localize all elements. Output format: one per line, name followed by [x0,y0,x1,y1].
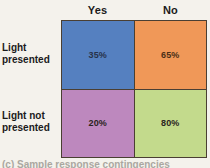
row-header-light-not-presented-line2: presented [2,122,59,134]
matrix-cell-light-presented-yes: 35% [62,21,134,89]
column-header-yes: Yes [61,3,134,17]
contingency-matrix-figure: Yes No Light presented Light not present… [0,0,210,168]
row-header-light-presented-line2: presented [2,54,59,66]
row-header-light-presented-line1: Light [2,42,59,54]
matrix-cell-value: 80% [161,118,180,128]
matrix-grid: 35% 65% 20% 80% [61,20,207,158]
matrix-cell-light-presented-no: 65% [135,21,207,89]
matrix-cell-value: 65% [161,50,180,60]
row-header-light-not-presented-line1: Light not [2,110,59,122]
matrix-cell-light-not-presented-no: 80% [135,90,207,158]
column-header-no: No [134,3,207,17]
row-header-light-not-presented: Light not presented [2,110,59,133]
figure-caption: (c) Sample response contingencies [2,159,208,168]
matrix-cell-value: 20% [88,118,107,128]
matrix-cell-light-not-presented-yes: 20% [62,90,134,158]
matrix-cell-value: 35% [88,50,107,60]
row-header-light-presented: Light presented [2,42,59,65]
